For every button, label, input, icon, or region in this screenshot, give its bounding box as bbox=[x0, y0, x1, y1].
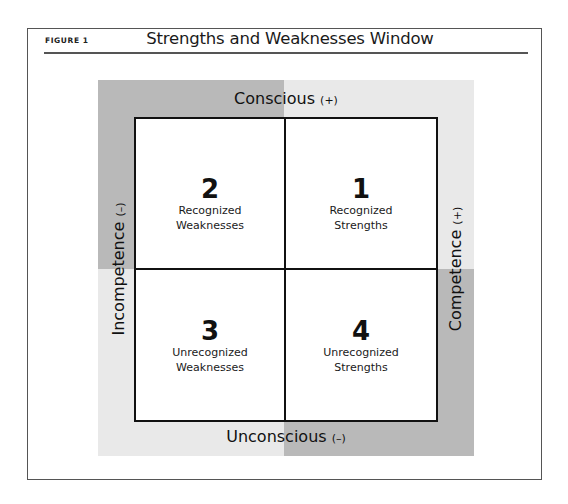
quadrant-label-line2: Weaknesses bbox=[135, 360, 285, 375]
quadrant-number: 2 bbox=[135, 175, 285, 203]
axis-bottom-sign: (–) bbox=[332, 432, 346, 445]
axis-label-competence: Competence (+) bbox=[446, 207, 465, 331]
figure-title: Strengths and Weaknesses Window bbox=[140, 29, 440, 48]
axis-left-text: Incompetence bbox=[109, 222, 128, 336]
quadrant-recognized-weaknesses: 2 Recognized Weaknesses bbox=[135, 175, 285, 233]
axis-top-sign: (+) bbox=[320, 94, 338, 107]
quadrant-label-line1: Unrecognized bbox=[286, 345, 436, 360]
quadrant-recognized-strengths: 1 Recognized Strengths bbox=[286, 175, 436, 233]
title-divider bbox=[44, 52, 528, 54]
quadrant-label-line1: Recognized bbox=[286, 203, 436, 218]
quadrant-number: 4 bbox=[286, 317, 436, 345]
quadrant-label-line1: Recognized bbox=[135, 203, 285, 218]
axis-right-sign: (+) bbox=[451, 207, 464, 225]
axis-bottom-text: Unconscious bbox=[226, 427, 326, 446]
quadrant-unrecognized-strengths: 4 Unrecognized Strengths bbox=[286, 317, 436, 375]
quadrant-number: 1 bbox=[286, 175, 436, 203]
axis-top-text: Conscious bbox=[234, 89, 315, 108]
axis-left-sign: (–) bbox=[114, 202, 127, 216]
quadrant-label-line1: Unrecognized bbox=[135, 345, 285, 360]
axis-label-incompetence: Incompetence (–) bbox=[109, 202, 128, 335]
axis-label-conscious: Conscious (+) bbox=[98, 89, 474, 108]
quadrant-label-line2: Weaknesses bbox=[135, 218, 285, 233]
axis-label-unconscious: Unconscious (–) bbox=[98, 427, 474, 446]
figure-label: FIGURE 1 bbox=[45, 36, 89, 45]
quadrant-label-line2: Strengths bbox=[286, 218, 436, 233]
axis-right-text: Competence bbox=[446, 230, 465, 331]
quadrant-number: 3 bbox=[135, 317, 285, 345]
quadrant-unrecognized-weaknesses: 3 Unrecognized Weaknesses bbox=[135, 317, 285, 375]
grid-horizontal-divider bbox=[134, 268, 438, 270]
quadrant-label-line2: Strengths bbox=[286, 360, 436, 375]
